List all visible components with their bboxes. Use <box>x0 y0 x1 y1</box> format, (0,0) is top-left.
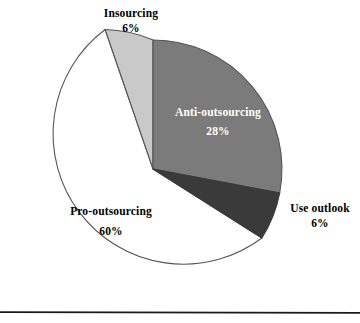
pie-chart-canvas <box>0 0 360 323</box>
pie-chart-figure: Insourcing 6% Anti-outsourcing 28% Use o… <box>0 0 360 323</box>
pie-label-insourcing-category: Insourcing <box>76 6 186 20</box>
pie-label-use-outlook-value: 6% <box>278 216 360 230</box>
pie-label-pro-outsourcing-category: Pro-outsourcing <box>38 204 184 218</box>
pie-label-pro-outsourcing: Pro-outsourcing 60% <box>38 204 184 238</box>
pie-label-anti-outsourcing: Anti-outsourcing 28% <box>150 105 286 138</box>
pie-label-pro-outsourcing-value: 60% <box>38 224 184 238</box>
bottom-divider-rule <box>0 311 360 314</box>
pie-label-anti-outsourcing-value: 28% <box>150 124 286 138</box>
pie-label-anti-outsourcing-category: Anti-outsourcing <box>150 105 286 119</box>
pie-label-insourcing: Insourcing 6% <box>76 6 186 35</box>
pie-label-insourcing-value: 6% <box>76 21 186 35</box>
pie-label-use-outlook-category: Use outlook <box>278 201 360 215</box>
pie-label-use-outlook: Use outlook 6% <box>278 201 360 230</box>
